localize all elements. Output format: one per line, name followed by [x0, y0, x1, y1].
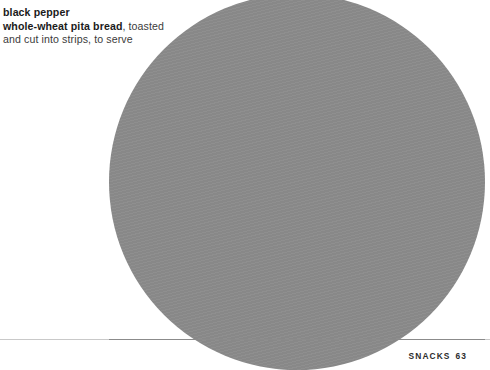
footer-divider-rule-over-photo	[109, 339, 485, 340]
page-footer: SNACKS63	[409, 351, 467, 361]
page-number: 63	[456, 351, 468, 361]
recipe-photo-circle	[109, 0, 485, 370]
ingredient-line-2-regular: , toasted	[122, 20, 164, 32]
ingredient-line-1-bold: black pepper	[3, 6, 70, 18]
ingredient-line-2-bold: whole-wheat pita bread	[3, 20, 122, 32]
ingredient-line-3-regular: and cut into strips, to serve	[3, 33, 133, 45]
cookbook-page: black pepper whole-wheat pita bread, toa…	[0, 0, 490, 370]
ingredient-list-text: black pepper whole-wheat pita bread, toa…	[3, 6, 213, 47]
footer-section-label: SNACKS	[409, 351, 451, 361]
ingredient-line-1: black pepper	[3, 6, 213, 20]
ingredient-line-3: and cut into strips, to serve	[3, 33, 213, 47]
ingredient-line-2: whole-wheat pita bread, toasted	[3, 20, 213, 34]
